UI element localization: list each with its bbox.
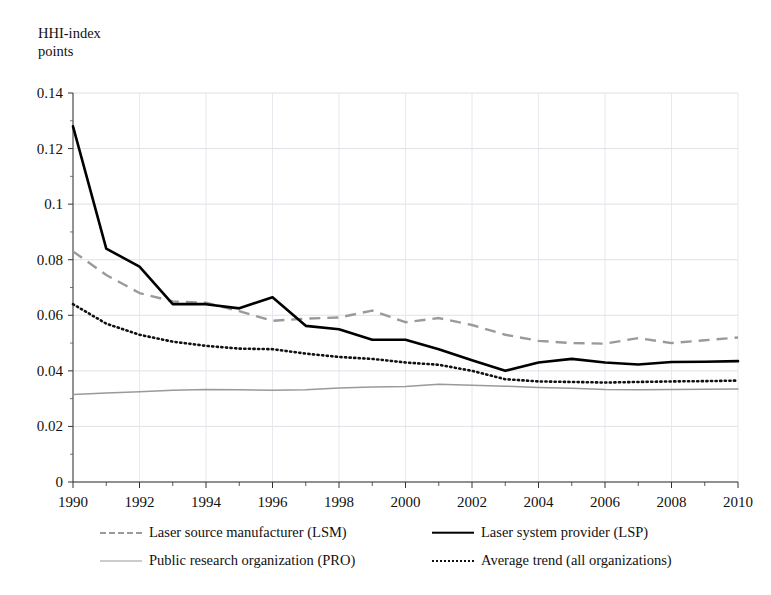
x-axis-tick-label: 1998 [324, 494, 354, 510]
y-axis-tick-label: 0.06 [37, 307, 64, 323]
x-axis-tick-label: 1996 [258, 494, 289, 510]
y-axis-tick-label: 0.14 [37, 85, 64, 101]
x-axis-tick-label: 1992 [125, 494, 155, 510]
x-axis-tick-label: 2008 [657, 494, 687, 510]
y-axis-tick-label: 0 [56, 474, 64, 490]
x-axis-tick-label: 2006 [590, 494, 621, 510]
legend-item-lsm[interactable]: Laser source manufacturer (LSM) [100, 524, 347, 541]
legend-label-lsp: Laser system provider (LSP) [481, 524, 648, 541]
legend-swatch-pro-solid-line-icon [100, 555, 142, 567]
x-axis-tick-label: 1990 [58, 494, 88, 510]
x-axis-tick-label: 2004 [524, 494, 555, 510]
legend-swatch-average-dotted-line-icon [432, 555, 474, 567]
legend-swatch-lsm-dashed-line-icon [100, 527, 142, 539]
legend-label-average-trend: Average trend (all organizations) [481, 552, 672, 569]
y-axis-tick-label: 0.12 [37, 141, 63, 157]
y-axis-tick-label: 0.02 [37, 418, 63, 434]
chart-root: HHI-index points 00.020.040.060.080.10.1… [0, 0, 771, 595]
y-axis-tick-label: 0.08 [37, 252, 63, 268]
legend-item-average-trend[interactable]: Average trend (all organizations) [432, 552, 672, 569]
x-axis-tick-label: 1994 [191, 494, 222, 510]
x-axis-tick-label: 2002 [457, 494, 487, 510]
legend-swatch-lsp-solid-line-icon [432, 527, 474, 539]
y-axis-tick-label: 0.04 [37, 363, 64, 379]
legend-item-lsp[interactable]: Laser system provider (LSP) [432, 524, 648, 541]
line-chart-canvas: 00.020.040.060.080.10.120.14199019921994… [0, 0, 771, 595]
x-axis-tick-label: 2000 [391, 494, 421, 510]
legend-label-lsm: Laser source manufacturer (LSM) [149, 524, 347, 541]
y-axis-tick-label: 0.1 [44, 196, 63, 212]
chart-legend: Laser source manufacturer (LSM) Laser sy… [0, 524, 771, 586]
legend-label-pro: Public research organization (PRO) [149, 552, 355, 569]
legend-item-pro[interactable]: Public research organization (PRO) [100, 552, 355, 569]
x-axis-tick-label: 2010 [723, 494, 753, 510]
